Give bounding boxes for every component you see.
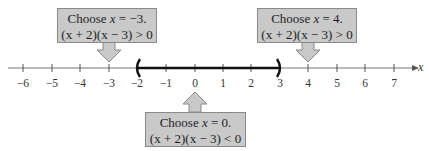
callout-line1: Choose x = −3. [58, 11, 156, 27]
tick-label: 5 [325, 77, 349, 89]
tick-label: 1 [211, 77, 235, 89]
callout-test-x-neg3: Choose x = −3. (x + 2)(x − 3) > 0 [57, 8, 157, 43]
callout-test-x-4: Choose x = 4. (x + 2)(x − 3) > 0 [257, 8, 357, 43]
arrow-down-icon [97, 42, 121, 62]
axis-variable-label: x [418, 60, 423, 75]
callout-line2: (x + 2)(x − 3) > 0 [58, 27, 156, 43]
tick-label: −3 [97, 77, 121, 89]
tick-label: −4 [68, 77, 92, 89]
tick-label: −5 [40, 77, 64, 89]
tick-label: 7 [382, 77, 406, 89]
callout-line2: (x + 2)(x − 3) > 0 [258, 27, 356, 43]
callout-line2: (x + 2)(x − 3) < 0 [146, 131, 245, 147]
tick-label: −6 [11, 77, 35, 89]
tick-label: 0 [183, 77, 207, 89]
tick-label: 4 [296, 77, 320, 89]
tick-label: −1 [154, 77, 178, 89]
tick-label: 6 [353, 77, 377, 89]
arrow-up-icon [183, 92, 207, 112]
tick-label: 2 [239, 77, 263, 89]
tick-label: −2 [125, 77, 149, 89]
callout-test-x-0: Choose x = 0. (x + 2)(x − 3) < 0 [145, 112, 246, 147]
callout-line1: Choose x = 0. [146, 115, 245, 131]
tick-label: 3 [268, 77, 292, 89]
arrow-down-icon [296, 42, 320, 62]
callout-line1: Choose x = 4. [258, 11, 356, 27]
